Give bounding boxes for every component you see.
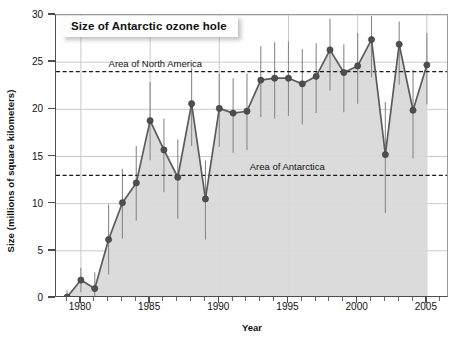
x-tick-mark-minor <box>176 297 177 301</box>
data-point-marker <box>105 236 111 242</box>
data-point-marker <box>258 77 264 83</box>
data-point-marker <box>216 105 222 111</box>
x-tick-mark-minor <box>439 297 440 301</box>
data-point-marker <box>355 63 361 69</box>
x-tick-label: 1980 <box>60 301 100 312</box>
data-point-marker <box>161 147 167 153</box>
data-point-marker <box>313 73 319 79</box>
x-tick-mark-minor <box>370 297 371 301</box>
data-point-marker <box>285 75 291 81</box>
data-point-marker <box>189 101 195 107</box>
x-axis-title: Year <box>55 322 449 333</box>
data-point-marker <box>410 107 416 113</box>
x-tick-mark-minor <box>328 297 329 301</box>
data-point-marker <box>327 47 333 53</box>
x-tick-mark-minor <box>93 297 94 301</box>
data-point-marker <box>147 118 153 124</box>
plot-area: Area of North AmericaArea of Antarctica <box>55 14 448 297</box>
x-tick-label: 1990 <box>198 301 238 312</box>
data-point-marker <box>368 36 374 42</box>
x-tick-mark-minor <box>232 297 233 301</box>
data-point-marker <box>382 152 388 158</box>
x-tick-label: 2005 <box>406 301 446 312</box>
x-tick-mark-minor <box>121 297 122 301</box>
x-tick-label: 1995 <box>267 301 307 312</box>
x-tick-mark-minor <box>190 297 191 301</box>
data-point-marker <box>119 200 125 206</box>
x-tick-mark-minor <box>259 297 260 301</box>
x-tick-mark-minor <box>162 297 163 301</box>
data-point-marker <box>92 285 98 291</box>
x-tick-label: 2000 <box>337 301 377 312</box>
x-tick-label: 1985 <box>129 301 169 312</box>
data-point-marker <box>175 174 181 180</box>
data-point-marker <box>78 277 84 283</box>
data-point-marker <box>230 110 236 116</box>
data-point-marker <box>299 81 305 87</box>
x-tick-mark-minor <box>398 297 399 301</box>
x-tick-mark-minor <box>315 297 316 301</box>
x-tick-mark-minor <box>107 297 108 301</box>
chart-title: Size of Antarctic ozone hole <box>62 16 238 37</box>
x-tick-mark-minor <box>301 297 302 301</box>
reference-line-label: Area of Antarctica <box>250 161 325 172</box>
data-point-marker <box>244 108 250 114</box>
data-point-marker <box>272 75 278 81</box>
data-point-marker <box>396 41 402 47</box>
reference-line-label: Area of North America <box>109 58 202 69</box>
data-point-marker <box>202 196 208 202</box>
data-point-marker <box>133 180 139 186</box>
x-tick-mark-minor <box>245 297 246 301</box>
x-tick-mark-minor <box>384 297 385 301</box>
data-point-marker <box>424 62 430 68</box>
chart-figure: Size (millions of square kilometers) 051… <box>0 0 459 342</box>
data-point-marker <box>341 69 347 75</box>
